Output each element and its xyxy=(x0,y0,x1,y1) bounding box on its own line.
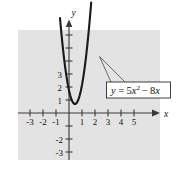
equation-lhs: y xyxy=(110,85,116,96)
parabola-plot: -3 -2 -1 1 2 3 4 5 3 2 1 -2 -3 x y y=5x2… xyxy=(0,0,177,178)
y-tick-label--2: -2 xyxy=(56,135,64,145)
x-tick-label-5: 5 xyxy=(132,117,137,127)
x-tick-label--1: -1 xyxy=(52,117,60,127)
y-tick-label--3: -3 xyxy=(56,148,64,158)
equation-label: y=5x2−8x xyxy=(110,84,160,96)
y-tick-label-2: 2 xyxy=(58,83,63,93)
x-axis-label: x xyxy=(163,109,169,119)
equation-minus-sign: − xyxy=(142,85,148,96)
x-tick-label-2: 2 xyxy=(93,117,98,127)
equation-exponent: 2 xyxy=(137,84,141,92)
y-tick-label-3: 3 xyxy=(58,70,63,80)
x-tick-label--3: -3 xyxy=(26,117,34,127)
graph-figure: -3 -2 -1 1 2 3 4 5 3 2 1 -2 -3 x y y=5x2… xyxy=(0,0,177,178)
y-tick-label-1: 1 xyxy=(58,96,63,106)
equation-equals: = xyxy=(118,85,124,96)
x-tick-label-3: 3 xyxy=(106,117,111,127)
x-tick-label--2: -2 xyxy=(39,117,47,127)
x-tick-label-1: 1 xyxy=(80,117,85,127)
equation-variable-2: x xyxy=(154,85,160,96)
y-axis-label: y xyxy=(70,8,76,18)
x-tick-label-4: 4 xyxy=(119,117,124,127)
